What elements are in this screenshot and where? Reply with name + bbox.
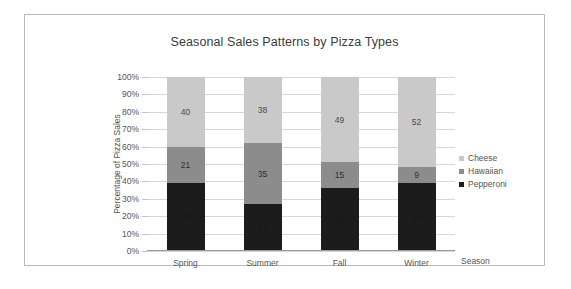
bar-segment-hawaiian: 21: [167, 147, 205, 184]
y-axis-tick-label: 10%: [122, 229, 139, 239]
y-axis-tick: [142, 164, 147, 165]
legend-label: Pepperoni: [468, 179, 507, 189]
y-axis-tick: [142, 199, 147, 200]
x-axis-tick-label: Winter: [398, 258, 436, 268]
y-axis-tick-label: 40%: [122, 176, 139, 186]
bar-segment-pepperoni: 36: [321, 188, 359, 251]
legend-item-cheese[interactable]: Cheese: [459, 153, 507, 163]
x-axis-tick-label: Spring: [167, 258, 205, 268]
bar-segment-cheese: 49: [321, 77, 359, 162]
y-axis-tick: [142, 181, 147, 182]
y-axis-tick: [142, 147, 147, 148]
y-axis-tick-label: 20%: [122, 211, 139, 221]
y-axis-tick: [142, 112, 147, 113]
bar-segment-cheese: 52: [398, 77, 436, 167]
y-axis-tick-label: 100%: [117, 72, 139, 82]
legend-item-hawaiian[interactable]: Hawaiian: [459, 166, 507, 176]
y-axis-tick: [142, 77, 147, 78]
legend-label: Cheese: [468, 153, 497, 163]
y-axis-tick-label: 50%: [122, 159, 139, 169]
y-axis-tick-label: 70%: [122, 124, 139, 134]
gridline: [147, 251, 455, 252]
bar-segment-hawaiian: 9: [398, 167, 436, 183]
y-axis-tick: [142, 234, 147, 235]
x-axis-tick-label: Summer: [244, 258, 282, 268]
chart-frame: Seasonal Sales Patterns by Pizza Types P…: [24, 14, 545, 266]
stacked-bar[interactable]: 383527Summer: [244, 77, 282, 251]
chart-legend: CheeseHawaiianPepperoni: [459, 153, 507, 189]
bar-segment-pepperoni: 39: [167, 183, 205, 251]
stacked-bar[interactable]: 52939Winter: [398, 77, 436, 251]
y-axis-tick-label: 0%: [127, 246, 139, 256]
y-axis-tick: [142, 129, 147, 130]
bar-segment-pepperoni: 39: [398, 183, 436, 251]
x-axis-title: Season: [461, 256, 490, 266]
y-axis-tick-label: 90%: [122, 89, 139, 99]
y-axis-tick: [142, 216, 147, 217]
y-axis-tick-label: 60%: [122, 142, 139, 152]
legend-swatch-icon: [459, 182, 464, 187]
plot-area: 0%10%20%30%40%50%60%70%80%90%100% 402139…: [147, 77, 455, 251]
bar-segment-cheese: 40: [167, 77, 205, 147]
bar-segment-pepperoni: 27: [244, 204, 282, 251]
bar-segment-cheese: 38: [244, 77, 282, 143]
y-axis-tick: [142, 94, 147, 95]
y-axis-tick-label: 30%: [122, 194, 139, 204]
x-axis-tick-label: Fall: [321, 258, 359, 268]
stacked-bar[interactable]: 402139Spring: [167, 77, 205, 251]
y-axis-tick-label: 80%: [122, 107, 139, 117]
y-axis-title-label: Percentage of Pizza Sales: [112, 114, 122, 214]
legend-item-pepperoni[interactable]: Pepperoni: [459, 179, 507, 189]
x-axis-line: [147, 250, 455, 251]
chart-title: Seasonal Sales Patterns by Pizza Types: [25, 35, 544, 49]
legend-swatch-icon: [459, 169, 464, 174]
bar-segment-hawaiian: 15: [321, 162, 359, 188]
stacked-bar[interactable]: 491536Fall: [321, 77, 359, 251]
y-axis-tick: [142, 251, 147, 252]
legend-swatch-icon: [459, 156, 464, 161]
legend-label: Hawaiian: [468, 166, 503, 176]
bar-segment-hawaiian: 35: [244, 143, 282, 204]
